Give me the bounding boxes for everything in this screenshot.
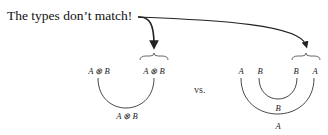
label-right-b2: B	[293, 66, 298, 76]
label-left-top-left: A ⊗ B	[88, 66, 109, 76]
brace-left	[140, 53, 168, 60]
label-inner-arc: B	[275, 103, 280, 113]
arrow-to-left-brace	[138, 17, 154, 45]
cup-inner	[259, 78, 297, 99]
arrow-to-right-brace	[138, 17, 306, 45]
brace-right	[292, 53, 320, 60]
label-left-top-right: A ⊗ B	[143, 66, 164, 76]
label-outer-arc: A	[275, 121, 280, 131]
vs-separator: vs.	[194, 84, 205, 95]
label-right-a2: A	[312, 66, 317, 76]
label-right-b1: B	[257, 66, 262, 76]
label-left-bottom: A ⊗ B	[116, 111, 137, 121]
caption-text: The types don’t match!	[7, 8, 132, 24]
label-right-a1: A	[238, 66, 243, 76]
cup-left	[98, 78, 154, 108]
